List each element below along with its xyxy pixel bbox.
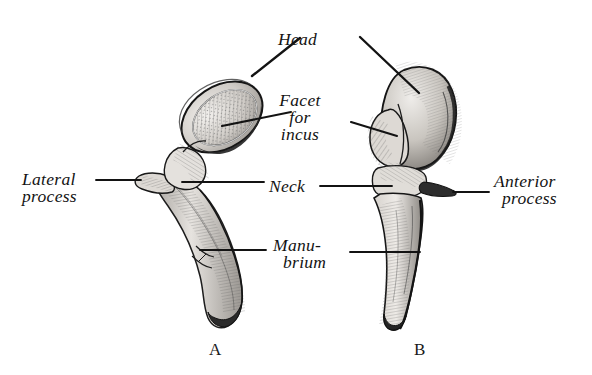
specimen-b-malleus	[370, 67, 456, 330]
figure-letter-b: B	[414, 340, 426, 360]
anatomical-figure-plate: Head Facet for incus Neck Manu- brium La…	[0, 0, 592, 375]
specimen-b-anterior-process	[419, 182, 456, 196]
label-head-text: Head	[278, 29, 317, 49]
figure-letter-a: A	[209, 340, 222, 360]
label-neck-text: Neck	[269, 176, 305, 196]
label-lateral-line2: process	[22, 188, 77, 205]
label-manubrium: Manu- brium	[273, 237, 326, 271]
label-manubrium-line2: brium	[273, 254, 326, 271]
label-facet-line3: incus	[262, 126, 338, 143]
label-anterior-process: Anterior process	[494, 173, 557, 207]
label-facet-for-incus: Facet for incus	[262, 92, 338, 143]
label-lateral-process: Lateral process	[22, 171, 77, 205]
label-anterior-line2: process	[494, 190, 557, 207]
label-head: Head	[278, 31, 317, 48]
label-neck: Neck	[269, 178, 305, 195]
specimen-a-malleus	[135, 63, 277, 327]
